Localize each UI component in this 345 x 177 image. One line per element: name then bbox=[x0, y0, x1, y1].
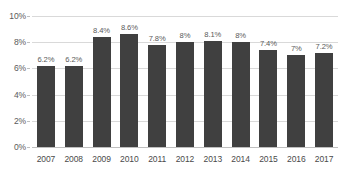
x-tick-label: 2011 bbox=[148, 154, 166, 164]
y-tick-mark bbox=[27, 147, 30, 148]
bar[interactable] bbox=[65, 66, 83, 147]
bar[interactable] bbox=[148, 45, 166, 147]
bar[interactable] bbox=[176, 42, 194, 147]
gridline bbox=[32, 147, 338, 148]
bar-value-label: 8.1% bbox=[204, 30, 221, 39]
bar-value-label: 8% bbox=[235, 31, 246, 40]
bar-slot: 8.6% bbox=[115, 16, 143, 147]
x-tick-label: 2014 bbox=[231, 154, 250, 164]
x-axis: 2007200820092010201120122013201420152016… bbox=[32, 150, 338, 170]
bar-chart: 0%2%4%6%8%10% 6.2%6.2%8.4%8.6%7.8%8%8.1%… bbox=[0, 0, 345, 177]
y-tick-mark bbox=[27, 68, 30, 69]
x-tick-label: 2008 bbox=[64, 154, 83, 164]
bar[interactable] bbox=[204, 41, 222, 147]
bar-slot: 8.1% bbox=[199, 16, 227, 147]
bar[interactable] bbox=[287, 55, 305, 147]
y-tick-mark bbox=[27, 16, 30, 17]
x-tick-label: 2015 bbox=[259, 154, 278, 164]
bar[interactable] bbox=[315, 53, 333, 147]
bar-slot: 7% bbox=[282, 16, 310, 147]
y-tick-label: 10% bbox=[9, 11, 26, 21]
bar[interactable] bbox=[259, 50, 277, 147]
y-tick-mark bbox=[27, 42, 30, 43]
bar-slot: 7.4% bbox=[255, 16, 283, 147]
bar-value-label: 8.4% bbox=[93, 26, 110, 35]
bar[interactable] bbox=[93, 37, 111, 147]
y-tick-label: 2% bbox=[14, 116, 26, 126]
bar[interactable] bbox=[232, 42, 250, 147]
x-tick-label: 2012 bbox=[176, 154, 195, 164]
bar-value-label: 7.2% bbox=[316, 42, 333, 51]
x-tick-label: 2016 bbox=[287, 154, 306, 164]
bar-value-label: 6.2% bbox=[65, 55, 82, 64]
bar-value-label: 6.2% bbox=[37, 55, 54, 64]
bar-slot: 6.2% bbox=[60, 16, 88, 147]
y-tick-mark bbox=[27, 95, 30, 96]
bar-value-label: 8% bbox=[180, 31, 191, 40]
x-tick-label: 2007 bbox=[37, 154, 56, 164]
bar[interactable] bbox=[37, 66, 55, 147]
bar-slot: 7.8% bbox=[143, 16, 171, 147]
y-tick-label: 0% bbox=[14, 142, 26, 152]
y-tick-label: 8% bbox=[14, 37, 26, 47]
x-tick-label: 2009 bbox=[92, 154, 111, 164]
x-tick-label: 2017 bbox=[315, 154, 334, 164]
bar-slot: 6.2% bbox=[32, 16, 60, 147]
y-axis: 0%2%4%6%8%10% bbox=[0, 16, 30, 147]
x-tick-label: 2013 bbox=[204, 154, 223, 164]
bars-layer: 6.2%6.2%8.4%8.6%7.8%8%8.1%8%7.4%7%7.2% bbox=[32, 16, 338, 147]
bar[interactable] bbox=[120, 34, 138, 147]
y-tick-mark bbox=[27, 121, 30, 122]
y-tick-label: 6% bbox=[14, 63, 26, 73]
bar-slot: 8.4% bbox=[88, 16, 116, 147]
bar-value-label: 8.6% bbox=[121, 23, 138, 32]
bar-slot: 7.2% bbox=[310, 16, 338, 147]
y-tick-label: 4% bbox=[14, 90, 26, 100]
bar-slot: 8% bbox=[171, 16, 199, 147]
bar-value-label: 7% bbox=[291, 44, 302, 53]
bar-slot: 8% bbox=[227, 16, 255, 147]
bar-value-label: 7.8% bbox=[149, 34, 166, 43]
bar-value-label: 7.4% bbox=[260, 39, 277, 48]
x-tick-label: 2010 bbox=[120, 154, 139, 164]
